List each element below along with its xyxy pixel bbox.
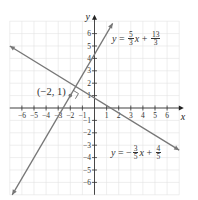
equation-line-2: y = −35x + 45 [111, 145, 162, 160]
eq1-plus: + [142, 33, 148, 44]
coordinate-plane: xy −6−5−4−3−2−1123456−6−5−4−3−2−1123456 [0, 0, 198, 200]
x-tick-label: −2 [66, 111, 74, 120]
y-tick-label: 3 [87, 66, 91, 75]
x-tick-label: 6 [165, 111, 169, 120]
right-angle-marker [73, 90, 78, 98]
eq2-lhs: y [111, 147, 115, 158]
eq2-var: x [139, 147, 143, 158]
x-tick-label: 3 [129, 111, 133, 120]
y-axis-arrow-icon [92, 15, 97, 20]
eq1-intercept: 133 [151, 31, 161, 46]
line-1 [12, 23, 112, 194]
eq2-equals: = − [118, 147, 132, 158]
y-tick-label: 6 [87, 29, 91, 38]
x-tick-label: −5 [30, 111, 38, 120]
eq1-int-den: 3 [154, 39, 158, 46]
eq1-slope-den: 3 [129, 39, 133, 46]
y-tick-label: −3 [83, 141, 91, 150]
y-tick-label: 2 [87, 79, 91, 88]
eq1-lhs: y [112, 33, 116, 44]
equation-line-1: y = 53x + 133 [112, 31, 161, 46]
marks [69, 90, 79, 98]
x-tick-label: 1 [105, 111, 109, 120]
y-tick-label: −4 [83, 153, 91, 162]
eq2-intercept: 45 [156, 145, 162, 160]
eq1-equals: = [119, 33, 125, 44]
x-tick-label: −4 [42, 111, 50, 120]
x-tick-label: −6 [18, 111, 26, 120]
eq1-slope: 53 [128, 31, 134, 46]
y-tick-label: −1 [83, 116, 91, 125]
eq2-plus: + [146, 147, 152, 158]
eq2-int-den: 5 [157, 153, 161, 160]
point-label: (−2, 1) [37, 86, 66, 97]
y-tick-label: 5 [87, 42, 91, 51]
y-tick-label: −5 [83, 166, 91, 175]
x-tick-label: 5 [153, 111, 157, 120]
x-axis-arrow-icon [179, 106, 184, 111]
x-axis-label: x [180, 111, 186, 122]
eq2-slope-den: 5 [134, 153, 138, 160]
x-tick-label: 4 [141, 111, 145, 120]
intersection-point [69, 94, 73, 98]
eq2-slope: 35 [133, 145, 139, 160]
y-axis-label: y [85, 11, 91, 22]
y-tick-label: −2 [83, 128, 91, 137]
eq1-var: x [135, 33, 139, 44]
y-tick-label: −6 [83, 178, 91, 187]
